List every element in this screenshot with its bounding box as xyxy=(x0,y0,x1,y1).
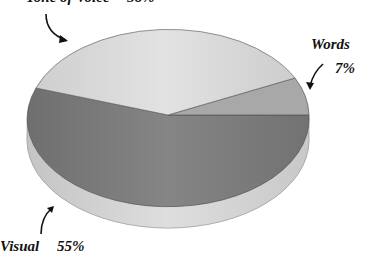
label-words-name: Words xyxy=(311,36,350,53)
label-visual-name: Visual xyxy=(0,238,39,254)
label-words-value: 7% xyxy=(335,60,355,77)
label-visual: Visual 55% xyxy=(0,238,84,255)
arrow-visual-icon xyxy=(41,206,54,234)
label-tone-value: 38% xyxy=(127,0,155,5)
label-tone-name: Tone of Voice xyxy=(26,0,110,5)
label-visual-value: 55% xyxy=(57,238,85,254)
label-tone-of-voice: Tone of Voice 38% xyxy=(26,0,155,6)
arrow-tone-icon xyxy=(46,14,68,43)
arrow-words-icon xyxy=(306,64,323,90)
